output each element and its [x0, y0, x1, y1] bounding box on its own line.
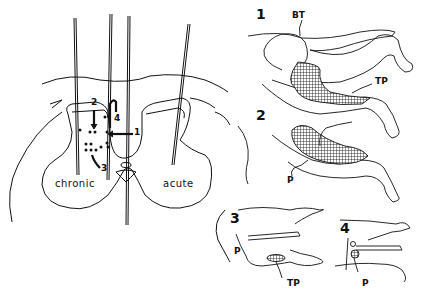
panel-2-label-p: P	[287, 175, 294, 185]
panel-2-number: 2	[256, 107, 266, 123]
panel-1-label-bt: BT	[292, 10, 305, 20]
panel-4-number: 4	[340, 220, 350, 236]
panel-1-label-tp: TP	[375, 76, 388, 86]
diagram-canvas	[0, 0, 423, 294]
panel-4-label-p: P	[362, 278, 369, 288]
chronic-label: chronic	[55, 178, 95, 189]
panel-2-rat	[238, 122, 399, 202]
panel-1-number: 1	[256, 6, 266, 22]
site-label-2: 2	[91, 97, 97, 107]
panel-3-number: 3	[230, 210, 240, 226]
panel-3-label-p: P	[234, 246, 241, 256]
panel-3-rat	[236, 208, 324, 279]
site-label-1: 1	[134, 127, 140, 137]
electrode-4	[172, 24, 188, 165]
acute-label: acute	[163, 178, 194, 189]
site-label-3: 3	[101, 163, 107, 173]
arrow-3	[92, 155, 100, 168]
brain-section	[10, 14, 230, 262]
panel-3-label-tp: TP	[287, 278, 300, 288]
site-label-4: 4	[114, 113, 120, 123]
electrode-3	[126, 16, 128, 225]
